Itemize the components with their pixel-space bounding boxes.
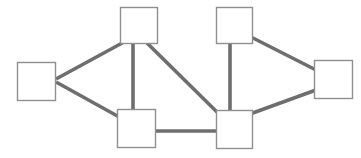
- edge-left-to-bottom-left[interactable]: [56, 82, 121, 118]
- node-top-left-box[interactable]: [121, 8, 158, 44]
- node-bottom-left[interactable]: [118, 110, 156, 148]
- node-top-right-box[interactable]: [217, 8, 253, 44]
- graph-svg: [0, 0, 361, 158]
- node-top-right[interactable]: [217, 8, 253, 44]
- diagram-canvas: [0, 0, 361, 158]
- node-left-box[interactable]: [18, 63, 56, 101]
- node-left[interactable]: [18, 63, 56, 101]
- node-bottom-right[interactable]: [217, 111, 253, 149]
- node-bottom-left-box[interactable]: [118, 110, 156, 148]
- edge-left-to-top-left[interactable]: [56, 42, 124, 79]
- edge-bottom-right-to-right[interactable]: [250, 90, 316, 114]
- node-right-box[interactable]: [315, 61, 353, 99]
- node-right[interactable]: [315, 61, 353, 99]
- edge-top-right-to-right[interactable]: [249, 36, 316, 70]
- edge-top-left-to-bottom-right[interactable]: [146, 42, 219, 114]
- edge-layer: [56, 36, 316, 131]
- node-top-left[interactable]: [121, 8, 158, 44]
- node-bottom-right-box[interactable]: [217, 111, 253, 149]
